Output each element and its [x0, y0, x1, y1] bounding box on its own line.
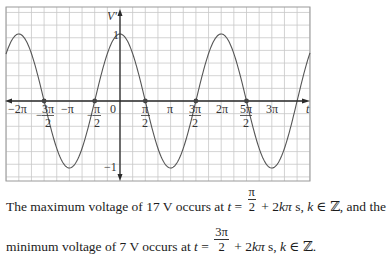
x-tick-3pi-2: 3π 2	[189, 102, 201, 130]
svg-text:2: 2	[45, 116, 51, 130]
svg-text:2: 2	[192, 116, 198, 130]
svg-text:π: π	[94, 102, 100, 116]
x-tick-pi: π	[167, 102, 173, 116]
origin-label: 0	[110, 102, 116, 116]
x-tick-neg-2pi: −2π	[8, 102, 27, 116]
cosine-chart: V' 1 −1 t 0 −2π −π π 2π 3π − 3π 2 − π 2 …	[0, 0, 390, 186]
svg-text:3π: 3π	[42, 102, 54, 116]
x-tick-neg-3pi-2: − 3π 2	[36, 102, 54, 130]
svg-text:2: 2	[94, 116, 100, 130]
caption-line-1: The maximum voltage of 17 V occurs at t …	[6, 200, 386, 214]
x-tick-3pi: 3π	[266, 102, 278, 116]
svg-text:3π: 3π	[189, 102, 201, 116]
x-tick-neg-pi: −π	[61, 102, 74, 116]
x-tick-2pi: 2π	[216, 102, 228, 116]
svg-text:2: 2	[243, 116, 249, 130]
caption-line-2: minimum voltage of 7 V occurs at t = 3π2…	[6, 240, 316, 254]
chart-grid	[6, 7, 310, 181]
svg-text:5π: 5π	[240, 102, 252, 116]
y-axis-label: V'	[107, 9, 117, 23]
svg-text:2: 2	[142, 116, 148, 130]
y-tick-1: 1	[113, 28, 119, 42]
y-tick-neg1: −1	[104, 160, 117, 174]
svg-text:−: −	[87, 108, 94, 122]
y-axis-down-arrow-icon	[118, 174, 123, 181]
svg-text:π: π	[142, 102, 148, 116]
